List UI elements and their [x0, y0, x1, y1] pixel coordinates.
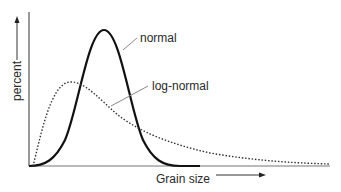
right-arrow-icon	[259, 173, 266, 178]
normal-leader-line	[123, 38, 137, 50]
grain-size-distribution-chart: normal log-normal percent Grain size	[0, 0, 341, 192]
y-axis-label: percent	[10, 60, 24, 101]
up-arrow-icon	[15, 16, 20, 23]
x-axis-label: Grain size	[156, 172, 210, 186]
normal-label: normal	[140, 31, 177, 45]
log-normal-label: log-normal	[152, 79, 209, 93]
normal-curve	[29, 30, 200, 166]
